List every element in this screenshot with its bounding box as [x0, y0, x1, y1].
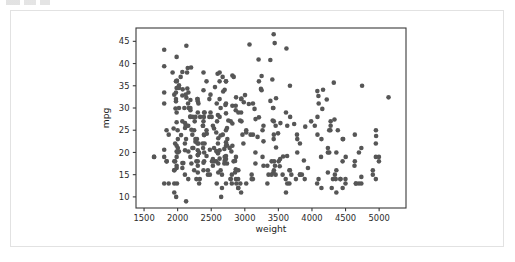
data-point	[174, 55, 179, 60]
data-point	[201, 88, 206, 93]
data-point	[173, 106, 178, 111]
data-point	[251, 132, 256, 137]
data-point	[277, 164, 282, 169]
data-point	[195, 97, 200, 102]
data-point	[315, 115, 320, 120]
data-point	[208, 92, 213, 97]
data-point	[234, 181, 239, 186]
data-point	[180, 166, 185, 171]
data-point	[284, 110, 289, 115]
data-point	[201, 146, 206, 151]
data-point	[164, 159, 169, 164]
data-point	[174, 110, 179, 115]
data-point	[271, 106, 276, 111]
data-point	[175, 128, 180, 133]
data-point	[280, 172, 285, 177]
data-point	[206, 168, 211, 173]
data-point	[170, 70, 175, 75]
data-point	[287, 168, 292, 173]
data-point	[194, 177, 199, 182]
data-point	[184, 43, 189, 48]
data-point	[172, 190, 177, 195]
data-point	[174, 143, 179, 148]
data-point	[186, 177, 191, 182]
x-tick-label: 4500	[335, 213, 356, 223]
data-point	[201, 168, 206, 173]
data-point	[288, 115, 293, 120]
data-point	[276, 131, 281, 136]
data-point	[174, 163, 179, 168]
x-axis-label: weight	[256, 223, 287, 234]
data-point	[260, 155, 265, 160]
data-point	[220, 75, 225, 80]
data-point	[162, 181, 167, 186]
data-point	[338, 177, 343, 182]
data-point	[192, 119, 197, 124]
data-point	[171, 126, 176, 131]
data-point	[288, 83, 293, 88]
data-point	[236, 177, 241, 182]
data-point	[174, 195, 179, 200]
data-point	[177, 86, 182, 91]
data-point	[162, 147, 167, 152]
data-point	[334, 168, 339, 173]
data-point	[243, 93, 248, 98]
data-point	[309, 119, 314, 124]
data-point	[331, 177, 336, 182]
matplotlib-figure: 15002000250030003500400045005000 1015202…	[11, 11, 505, 248]
data-point	[217, 97, 222, 102]
data-point	[184, 123, 189, 128]
data-point	[233, 167, 238, 172]
data-point	[377, 159, 382, 164]
scatter-points-group	[152, 32, 391, 204]
data-point	[371, 172, 376, 177]
data-point	[207, 97, 212, 102]
data-point	[231, 75, 236, 80]
data-point	[247, 42, 252, 47]
data-point	[217, 115, 222, 120]
data-point	[340, 137, 345, 142]
x-tick-label: 4000	[301, 213, 322, 223]
data-point	[271, 32, 276, 37]
data-point	[284, 190, 289, 195]
data-point	[230, 181, 235, 186]
data-point	[197, 181, 202, 186]
data-point	[216, 151, 221, 156]
data-point	[259, 74, 264, 79]
data-point	[230, 103, 235, 108]
data-point	[234, 155, 239, 160]
data-point	[386, 95, 391, 100]
data-point	[326, 170, 331, 175]
data-point	[195, 110, 200, 115]
data-point	[320, 107, 325, 112]
data-point	[189, 127, 194, 132]
data-point	[239, 190, 244, 195]
data-point	[298, 141, 303, 146]
scatter-plot: 15002000250030003500400045005000 1015202…	[11, 11, 505, 248]
data-point	[183, 141, 188, 146]
data-point	[224, 181, 229, 186]
data-point	[166, 181, 171, 186]
data-point	[190, 132, 195, 137]
data-point	[273, 123, 278, 128]
data-point	[212, 126, 217, 131]
data-point	[278, 121, 283, 126]
data-point	[240, 132, 245, 137]
data-point	[183, 172, 188, 177]
data-point	[181, 161, 186, 166]
data-point	[198, 115, 203, 120]
x-axis-ticks: 15002000250030003500400045005000	[133, 208, 389, 223]
data-point	[333, 172, 338, 177]
data-point	[215, 119, 220, 124]
data-point	[334, 190, 339, 195]
data-point	[204, 154, 209, 159]
data-point	[224, 128, 229, 133]
data-point	[174, 155, 179, 160]
data-point	[185, 66, 190, 71]
data-point	[174, 149, 179, 154]
data-point	[224, 101, 229, 106]
data-point	[265, 181, 270, 186]
data-point	[184, 137, 189, 142]
data-point	[251, 101, 256, 106]
data-point	[312, 123, 317, 128]
